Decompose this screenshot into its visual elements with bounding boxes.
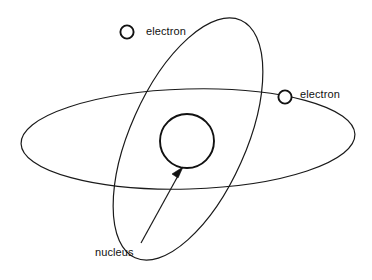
- nucleus-arrow-head: [172, 167, 183, 178]
- electron-label-right: electron: [300, 88, 340, 100]
- nucleus-label: nucleus: [95, 246, 134, 258]
- atom-diagram-canvas: [0, 0, 372, 280]
- nucleus-leader-line: [141, 174, 179, 243]
- electron-circle-right: [278, 90, 291, 103]
- nucleus-circle: [160, 114, 214, 168]
- electron-circle-top: [120, 25, 133, 38]
- electron-label-top: electron: [146, 25, 186, 37]
- atom-diagram: electron electron nucleus: [0, 0, 372, 280]
